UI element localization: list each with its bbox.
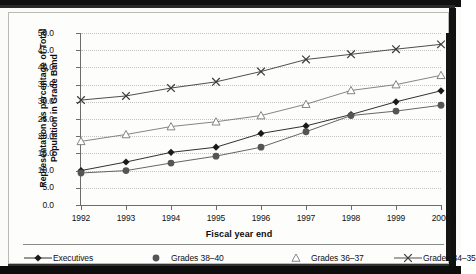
x-axis-tick bbox=[306, 205, 307, 210]
series-layer bbox=[81, 33, 441, 205]
x-axis-tick bbox=[396, 205, 397, 210]
data-point bbox=[168, 160, 175, 167]
series-diamond bbox=[77, 87, 444, 174]
legend-item-label: Executives bbox=[53, 253, 93, 263]
x-axis-tick-label: 1996 bbox=[241, 213, 281, 223]
x-axis-tick-label: 1995 bbox=[196, 213, 236, 223]
x-axis-tick-label: 1994 bbox=[151, 213, 191, 223]
x-axis-tick bbox=[171, 205, 172, 210]
legend-marker-icon bbox=[23, 251, 53, 265]
x-axis-tick-label: 1993 bbox=[106, 213, 146, 223]
x-axis-tick-label: 1998 bbox=[331, 213, 371, 223]
legend-item-triangle[interactable]: Grades 36–37 bbox=[281, 250, 393, 266]
x-axis-tick-label: 1997 bbox=[286, 213, 326, 223]
data-point bbox=[258, 144, 265, 151]
legend-item-label: Grades 34–35 bbox=[423, 253, 476, 263]
legend-item-label: Grades 38–40 bbox=[171, 253, 224, 263]
x-axis-tick bbox=[216, 205, 217, 210]
page-edge-bottom bbox=[0, 266, 461, 274]
data-point bbox=[348, 112, 355, 119]
data-point bbox=[257, 130, 264, 137]
legend-marker-icon bbox=[141, 251, 171, 265]
x-axis-tick bbox=[81, 205, 82, 210]
x-axis-tick bbox=[126, 205, 127, 210]
data-point bbox=[303, 128, 310, 135]
data-point bbox=[438, 102, 445, 109]
data-point bbox=[213, 153, 220, 160]
data-point bbox=[122, 158, 129, 165]
legend-item-label: Grades 36–37 bbox=[311, 253, 364, 263]
page-edge-top-inner bbox=[0, 5, 455, 8]
data-point bbox=[34, 254, 41, 261]
data-point bbox=[78, 170, 85, 177]
y-axis-tick-label: 15.0 bbox=[14, 149, 54, 157]
data-point bbox=[292, 254, 300, 261]
legend-separator bbox=[23, 244, 444, 245]
legend-item-circle[interactable]: Grades 38–40 bbox=[141, 250, 281, 266]
x-axis-tick-label: 1999 bbox=[376, 213, 416, 223]
legend-item-cross[interactable]: Grades 34–35 bbox=[393, 250, 443, 266]
series-cross bbox=[77, 41, 445, 104]
data-point bbox=[437, 71, 445, 78]
data-point bbox=[392, 98, 399, 105]
data-point bbox=[393, 108, 400, 115]
x-axis-tick bbox=[441, 205, 442, 210]
chart-card: Representation as percentage of Total Po… bbox=[8, 12, 449, 264]
y-axis-tick-label: 40.0 bbox=[14, 63, 54, 71]
card-shadow bbox=[446, 33, 451, 261]
y-axis-tick-label: 45.0 bbox=[14, 46, 54, 54]
data-point bbox=[153, 255, 160, 262]
legend-marker-icon bbox=[393, 251, 423, 265]
y-axis-tick-label: 10.0 bbox=[14, 166, 54, 174]
y-axis-tick-label: 0.0 bbox=[14, 201, 54, 209]
data-point bbox=[257, 68, 265, 76]
x-axis-tick-label: 2000 bbox=[421, 213, 461, 223]
y-axis-tick-label: 25.0 bbox=[14, 115, 54, 123]
data-point bbox=[167, 149, 174, 156]
y-axis-tick-label: 35.0 bbox=[14, 80, 54, 88]
chart-legend: ExecutivesGrades 38–40Grades 36–37Grades… bbox=[23, 249, 443, 267]
x-axis-tick bbox=[261, 205, 262, 210]
y-axis-title: Representation as percentage of Total Po… bbox=[38, 10, 60, 206]
data-point bbox=[437, 87, 444, 94]
data-point bbox=[123, 167, 130, 174]
y-axis-tick-label: 20.0 bbox=[14, 132, 54, 140]
data-point bbox=[212, 144, 219, 151]
legend-marker-icon bbox=[281, 251, 311, 265]
legend-item-diamond[interactable]: Executives bbox=[23, 250, 141, 266]
y-axis-tick-label: 5.0 bbox=[14, 183, 54, 191]
x-axis-title: Fiscal year end bbox=[159, 229, 319, 239]
y-axis-tick-label: 50.0 bbox=[14, 29, 54, 37]
plot-area: 199219931994199519961997199819992000 bbox=[81, 33, 441, 205]
x-axis-tick-label: 1992 bbox=[61, 213, 101, 223]
y-axis-tick-label: 30.0 bbox=[14, 97, 54, 105]
x-axis-tick bbox=[351, 205, 352, 210]
data-point bbox=[302, 100, 310, 107]
